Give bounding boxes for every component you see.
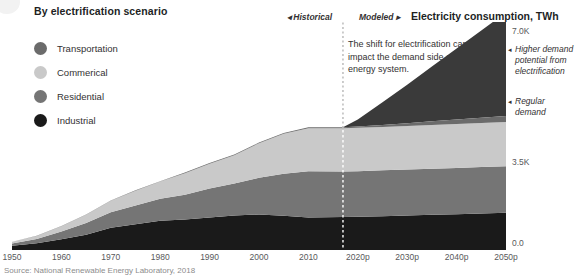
legend-title: By electrification scenario	[34, 5, 167, 17]
annotation-label: Higher demand potential from electrifica…	[515, 44, 574, 77]
x-axis-tick-label: 1970	[101, 252, 120, 262]
left-arrow-icon: ◂	[508, 44, 512, 55]
annotation-regular-demand: ◂ Regular demand	[508, 96, 574, 118]
annotation-higher-demand: ◂ Higher demand potential from electrifi…	[508, 44, 574, 77]
stacked-area-chart	[12, 22, 506, 250]
x-axis-tick-label: 2000	[250, 252, 269, 262]
left-arrow-icon: ◂	[508, 96, 512, 107]
source-note: Source: National Renewable Energy Labora…	[4, 266, 195, 275]
annotation-label: Regular demand	[515, 96, 574, 118]
y-axis-tick-label: 7.0K	[512, 26, 530, 36]
x-axis-tick-label: 2050p	[494, 252, 518, 262]
plot-area	[12, 22, 506, 250]
x-axis-tick-label: 1960	[52, 252, 71, 262]
x-axis: 19501960197019801990200020102020p2030p20…	[0, 252, 575, 266]
x-axis-tick-label: 2020p	[346, 252, 370, 262]
x-axis-tick-label: 1990	[200, 252, 219, 262]
y-axis-tick-label: 3.5K	[512, 157, 530, 167]
x-axis-tick-label: 2010	[299, 252, 318, 262]
chart-title: Electricity consumption, TWh	[411, 10, 559, 22]
x-axis-tick-label: 2040p	[445, 252, 469, 262]
x-axis-tick-label: 1980	[151, 252, 170, 262]
x-axis-tick-label: 2030p	[395, 252, 419, 262]
period-label-modeled: Modeled ▸	[359, 12, 400, 22]
chart-figure: By electrification scenario Transportati…	[0, 0, 575, 280]
y-axis-tick-label: 0.0	[512, 238, 524, 248]
watermark-blob	[0, 0, 20, 14]
period-label-historical: ◂ Historical	[287, 12, 332, 22]
x-axis-tick-label: 1950	[3, 252, 22, 262]
